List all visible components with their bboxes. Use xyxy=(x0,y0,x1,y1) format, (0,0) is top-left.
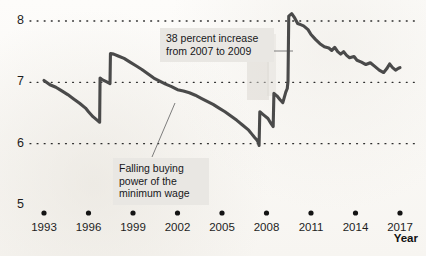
x-tick-dot xyxy=(130,210,135,215)
x-axis-tick-label: 2011 xyxy=(291,221,331,233)
x-axis-tick-label: 1993 xyxy=(24,221,64,233)
leader-line xyxy=(152,103,175,157)
x-tick-dot xyxy=(308,210,313,215)
x-tick-dot xyxy=(397,210,402,215)
x-tick-dot xyxy=(175,210,180,215)
x-tick-dot xyxy=(264,210,269,215)
x-tick-dot xyxy=(86,210,91,215)
x-axis-tick-dots xyxy=(41,210,402,215)
x-axis-title: Year xyxy=(394,232,418,244)
y-axis-tick-label: 6 xyxy=(8,136,24,150)
x-tick-dot xyxy=(41,210,46,215)
x-tick-dot xyxy=(219,210,224,215)
x-tick-dot xyxy=(353,210,358,215)
annotation-falling: Falling buying power of the minimum wage xyxy=(113,158,209,205)
y-axis-tick-label: 7 xyxy=(8,74,24,88)
x-axis-tick-label: 1999 xyxy=(113,221,153,233)
y-axis-tick-label: 5 xyxy=(8,197,24,211)
x-axis-tick-label: 2002 xyxy=(158,221,198,233)
x-axis-tick-label: 2008 xyxy=(247,221,287,233)
y-axis-tick-label: 8 xyxy=(8,13,24,27)
x-axis-tick-label: 1996 xyxy=(69,221,109,233)
minimum-wage-chart: 8765 19931996199920022005200820112014201… xyxy=(0,0,426,256)
annotation-increase: 38 percent increase from 2007 to 2009 xyxy=(160,28,274,62)
x-axis-tick-label: 2014 xyxy=(336,221,376,233)
x-axis-tick-label: 2005 xyxy=(202,221,242,233)
